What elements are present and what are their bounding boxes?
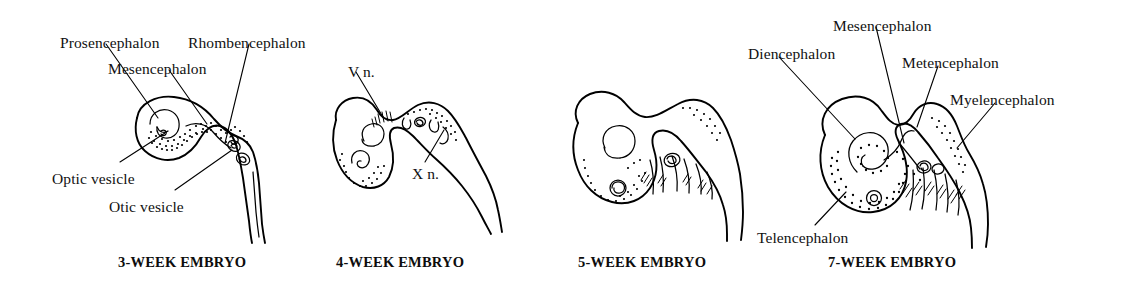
label-rhombencephalon: Rhombencephalon: [188, 35, 306, 51]
caption-5-week-embryo: 5-WEEK EMBRYO: [578, 254, 706, 271]
label-mesencephalon: Mesencephalon: [108, 61, 207, 77]
caption-4-week-embryo: 4-WEEK EMBRYO: [336, 254, 464, 271]
embryo-brain-development-figure: Prosencephalon Rhombencephalon Mesenceph…: [0, 0, 1126, 307]
caption-7-week-embryo: 7-WEEK EMBRYO: [828, 254, 956, 271]
caption-3-week-embryo: 3-WEEK EMBRYO: [118, 254, 246, 271]
label-prosencephalon: Prosencephalon: [60, 35, 160, 51]
label-trigeminal-nerve: V n.: [348, 64, 375, 80]
label-diencephalon: Diencephalon: [748, 46, 835, 62]
label-optic-vesicle: Optic vesicle: [52, 171, 135, 187]
label-myelencephalon: Myelencephalon: [950, 92, 1055, 108]
label-mesencephalon-7w: Mesencephalon: [833, 18, 932, 34]
label-metencephalon: Metencephalon: [902, 55, 999, 71]
label-telencephalon: Telencephalon: [757, 230, 848, 246]
label-layer: Prosencephalon Rhombencephalon Mesenceph…: [0, 0, 1126, 307]
label-vagus-nerve: X n.: [412, 166, 439, 182]
label-otic-vesicle: Otic vesicle: [109, 199, 184, 215]
